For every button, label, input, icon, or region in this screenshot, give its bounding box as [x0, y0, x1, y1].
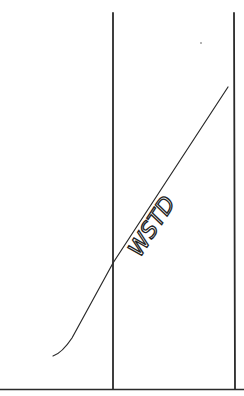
stray-dot — [200, 42, 202, 44]
sketch-canvas: WSTD — [0, 0, 244, 396]
handwritten-annotation: WSTD — [123, 192, 180, 261]
right-vertical-line — [234, 13, 235, 389]
